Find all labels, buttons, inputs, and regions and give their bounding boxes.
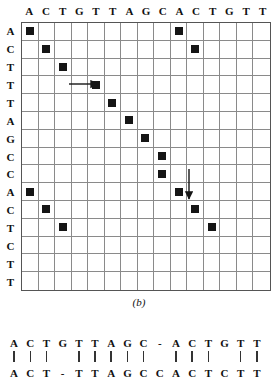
alignment-top-char-11: A xyxy=(168,336,184,351)
matrix-cell-r9c14 xyxy=(237,165,254,183)
match-dot xyxy=(26,27,34,35)
alignment-top-char-10: - xyxy=(152,336,168,351)
matrix-cell-r4c5 xyxy=(88,76,105,94)
row-header-5: T xyxy=(2,94,19,112)
matrix-cell-r13c10 xyxy=(171,237,188,255)
matrix-cell-r14c12 xyxy=(204,254,221,272)
matrix-cell-r11c6 xyxy=(105,201,122,219)
matrix-cell-r4c14 xyxy=(237,76,254,94)
matrix-cell-r13c15 xyxy=(253,237,270,255)
matrix-cell-r4c2 xyxy=(39,76,56,94)
matrix-cell-r5c2 xyxy=(39,94,56,112)
matrix-cell-r13c12 xyxy=(204,237,221,255)
matrix-cell-r15c10 xyxy=(171,272,188,290)
alignment-top-char-3: T xyxy=(38,336,54,351)
alignment-top-char-9: C xyxy=(136,336,152,351)
match-bar-glyph xyxy=(30,351,32,362)
column-header-9: C xyxy=(154,2,171,20)
match-bar-5 xyxy=(71,351,87,366)
matrix-cell-r8c1 xyxy=(22,148,39,166)
matrix-cell-r10c3 xyxy=(55,183,72,201)
matrix-cell-r8c11 xyxy=(187,148,204,166)
alignment-bottom-char-13: T xyxy=(200,366,216,381)
match-bar-11 xyxy=(168,351,184,366)
matrix-cell-r8c12 xyxy=(204,148,221,166)
matrix-cell-r9c7 xyxy=(121,165,138,183)
matrix-cell-r7c7 xyxy=(121,130,138,148)
matrix-cell-r1c13 xyxy=(220,23,237,41)
matrix-cell-r15c12 xyxy=(204,272,221,290)
alignment-bottom-sequence: ACT-TTAGCCACTCTT xyxy=(6,366,272,381)
alignment-bottom-char-9: C xyxy=(136,366,152,381)
matrix-cell-r13c2 xyxy=(39,237,56,255)
alignment-match-bars xyxy=(6,351,272,366)
matrix-cell-r12c11 xyxy=(187,219,204,237)
match-bar-8 xyxy=(119,351,135,366)
matrix-cell-r11c8 xyxy=(138,201,155,219)
matrix-cell-r3c8 xyxy=(138,59,155,77)
matrix-cell-r9c4 xyxy=(72,165,89,183)
matrix-cell-r6c13 xyxy=(220,112,237,130)
match-bar-glyph xyxy=(127,351,129,362)
matrix-cell-r2c2 xyxy=(39,41,56,59)
matrix-cell-r13c3 xyxy=(55,237,72,255)
matrix-cell-r10c14 xyxy=(237,183,254,201)
matrix-cell-r14c9 xyxy=(154,254,171,272)
match-bar-glyph xyxy=(78,351,80,362)
alignment-top-char-16: T xyxy=(249,336,265,351)
matrix-cell-r14c3 xyxy=(55,254,72,272)
row-header-9: C xyxy=(2,166,19,184)
matrix-cell-r9c10 xyxy=(171,165,188,183)
matrix-cell-r13c14 xyxy=(237,237,254,255)
matrix-cell-r13c6 xyxy=(105,237,122,255)
matrix-cell-r14c13 xyxy=(220,254,237,272)
matrix-cell-r6c6 xyxy=(105,112,122,130)
matrix-cell-r2c11 xyxy=(187,41,204,59)
column-header-10: A xyxy=(171,2,188,20)
matrix-cell-r7c4 xyxy=(72,130,89,148)
matrix-cell-r14c4 xyxy=(72,254,89,272)
match-bar-2 xyxy=(22,351,38,366)
match-dot xyxy=(208,223,216,231)
matrix-cell-r1c8 xyxy=(138,23,155,41)
alignment-bottom-char-16: T xyxy=(249,366,265,381)
alignment-top-char-4: G xyxy=(55,336,71,351)
matrix-cell-r9c5 xyxy=(88,165,105,183)
column-header-4: G xyxy=(71,2,88,20)
dot-plot-matrix xyxy=(21,22,271,291)
column-header-2: C xyxy=(38,2,55,20)
matrix-cell-r14c1 xyxy=(22,254,39,272)
alignment-bottom-char-11: A xyxy=(168,366,184,381)
matrix-cell-r7c6 xyxy=(105,130,122,148)
match-dot xyxy=(59,223,67,231)
matrix-cell-r3c4 xyxy=(72,59,89,77)
matrix-cell-r4c4 xyxy=(72,76,89,94)
alignment-top-char-14: G xyxy=(216,336,232,351)
matrix-cell-r5c13 xyxy=(220,94,237,112)
matrix-cell-r14c2 xyxy=(39,254,56,272)
matrix-cell-r4c11 xyxy=(187,76,204,94)
matrix-cell-r1c4 xyxy=(72,23,89,41)
matrix-cell-r4c7 xyxy=(121,76,138,94)
matrix-cell-r5c15 xyxy=(253,94,270,112)
matrix-cell-r4c1 xyxy=(22,76,39,94)
match-dot xyxy=(108,99,116,107)
matrix-cell-r1c10 xyxy=(171,23,188,41)
matrix-cell-r12c12 xyxy=(204,219,221,237)
matrix-cell-r3c1 xyxy=(22,59,39,77)
column-header-6: T xyxy=(104,2,121,20)
row-header-4: T xyxy=(2,76,19,94)
column-header-14: T xyxy=(238,2,255,20)
matrix-cell-r7c14 xyxy=(237,130,254,148)
matrix-cell-r7c13 xyxy=(220,130,237,148)
matrix-cell-r11c10 xyxy=(171,201,188,219)
matrix-cell-r2c10 xyxy=(171,41,188,59)
matrix-cell-r8c10 xyxy=(171,148,188,166)
match-dot xyxy=(158,170,166,178)
matrix-cell-r15c14 xyxy=(237,272,254,290)
alignment-bottom-char-2: C xyxy=(22,366,38,381)
matrix-cell-r9c1 xyxy=(22,165,39,183)
matrix-cell-r12c13 xyxy=(220,219,237,237)
matrix-cell-r2c4 xyxy=(72,41,89,59)
matrix-cell-r14c5 xyxy=(88,254,105,272)
